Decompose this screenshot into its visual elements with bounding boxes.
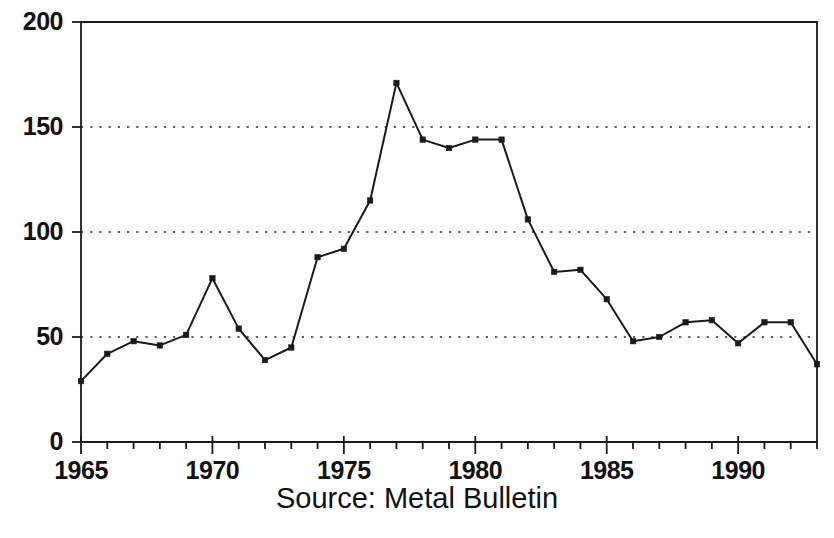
data-point-marker (420, 137, 425, 142)
data-point-marker (394, 80, 399, 85)
data-point-marker (183, 332, 188, 337)
y-axis-tick-label: 50 (36, 324, 63, 349)
data-point-marker (578, 267, 583, 272)
data-point-marker (131, 339, 136, 344)
y-axis-tick-label: 150 (23, 114, 63, 139)
data-point-marker (499, 137, 504, 142)
data-point-marker (262, 357, 267, 362)
data-point-marker (289, 345, 294, 350)
y-axis-tick-label: 0 (50, 429, 63, 454)
x-axis-tick-label: 1965 (21, 458, 141, 483)
chart-figure: 050100150200196519701975198019851990 (0, 0, 834, 538)
data-point-marker (210, 276, 215, 281)
data-point-marker (367, 198, 372, 203)
data-point-marker (709, 318, 714, 323)
source-caption: Source: Metal Bulletin (0, 484, 834, 513)
data-point-marker (735, 341, 740, 346)
data-point-marker (315, 255, 320, 260)
y-axis-tick-label: 200 (23, 9, 63, 34)
data-point-marker (157, 343, 162, 348)
data-point-marker (105, 351, 110, 356)
data-point-marker (762, 320, 767, 325)
x-axis-tick-label: 1985 (547, 458, 667, 483)
data-point-marker (551, 269, 556, 274)
x-axis-tick-label: 1990 (678, 458, 798, 483)
data-point-marker (683, 320, 688, 325)
data-point-marker (446, 145, 451, 150)
data-point-marker (341, 246, 346, 251)
data-point-marker (78, 378, 83, 383)
data-point-marker (657, 334, 662, 339)
x-axis-tick-label: 1970 (152, 458, 272, 483)
data-point-marker (604, 297, 609, 302)
x-axis-tick-label: 1975 (284, 458, 404, 483)
y-axis-tick-label: 100 (23, 219, 63, 244)
data-point-marker (525, 217, 530, 222)
data-point-marker (814, 362, 819, 367)
data-point-marker (473, 137, 478, 142)
x-axis-tick-label: 1980 (415, 458, 535, 483)
data-point-marker (236, 326, 241, 331)
data-point-marker (788, 320, 793, 325)
data-point-marker (630, 339, 635, 344)
